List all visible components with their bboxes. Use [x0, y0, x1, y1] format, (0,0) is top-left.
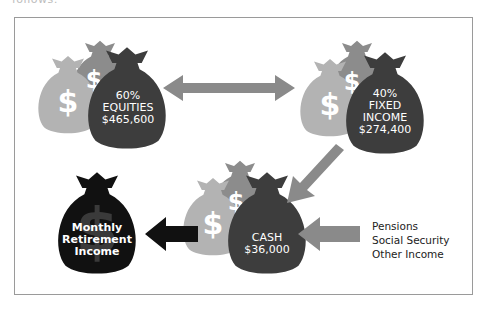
diagram-graphics: $ $ $ $ $ $ $: [0, 0, 489, 309]
dollar-icon: $: [203, 206, 224, 241]
source-item: Social Security: [372, 233, 450, 247]
monthly-income-label: Monthly Retirement Income: [60, 222, 134, 258]
dollar-icon: $: [58, 84, 79, 119]
source-item: Pensions: [372, 219, 450, 233]
income-sources-list: Pensions Social Security Other Income: [372, 219, 450, 262]
equities-label: 60% EQUITIES $465,600: [96, 90, 160, 126]
monthly-line-3: Income: [60, 246, 134, 258]
left-arrow-icon: [298, 217, 360, 251]
cash-amount: $36,000: [236, 244, 298, 256]
diagonal-arrow-icon: [287, 144, 344, 203]
cash-label: CASH $36,000: [236, 232, 298, 256]
source-item: Other Income: [372, 247, 450, 261]
cash-bag-group: $ $: [183, 161, 305, 274]
fixed-income-amount: $274,400: [352, 124, 418, 136]
dollar-icon: $: [320, 87, 341, 122]
double-arrow-icon: [163, 75, 295, 101]
fixed-income-label: 40% FIXED INCOME $274,400: [352, 88, 418, 136]
equities-amount: $465,600: [96, 114, 160, 126]
